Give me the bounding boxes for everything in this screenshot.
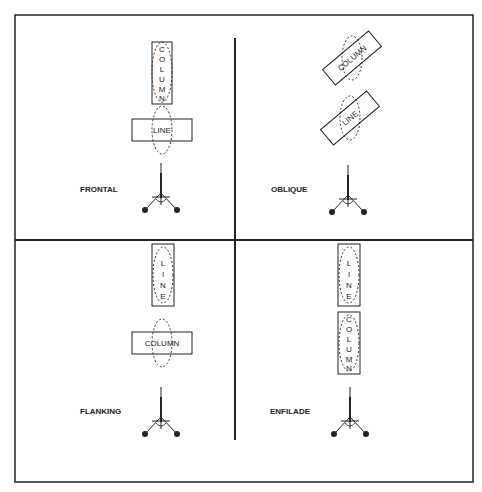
quadrant-frontal: C O L U M N LINE FRONTAL — [80, 42, 192, 213]
svg-text:N: N — [346, 364, 352, 373]
column-target: C O L U M N — [338, 312, 360, 374]
line-target: LINE — [132, 106, 192, 154]
svg-text:L: L — [161, 259, 166, 268]
column-target: COLUMN — [314, 21, 390, 95]
svg-text:L: L — [160, 65, 165, 74]
svg-text:L: L — [347, 259, 352, 268]
tripod-machine-gun-icon — [329, 165, 367, 215]
svg-text:COLUMN: COLUMN — [145, 339, 180, 348]
svg-text:M: M — [159, 85, 166, 94]
svg-text:C: C — [346, 315, 352, 324]
tripod-machine-gun-icon — [142, 387, 180, 437]
svg-text:L: L — [347, 335, 352, 344]
fire-type-label: ENFILADE — [270, 407, 311, 416]
svg-text:C: C — [159, 45, 165, 54]
fire-type-label: FLANKING — [80, 407, 121, 416]
tripod-machine-gun-icon — [142, 163, 180, 213]
fire-types-diagram: C O L U M N LINE FRONTAL COLUMN LINE OBL… — [0, 0, 482, 492]
column-target: C O L U M N — [152, 42, 172, 104]
svg-text:LINE: LINE — [153, 126, 171, 135]
quadrant-flanking: L I N E COLUMN FLANKING — [80, 244, 192, 437]
svg-text:U: U — [346, 345, 352, 354]
svg-text:E: E — [346, 292, 351, 301]
svg-text:O: O — [346, 325, 352, 334]
svg-text:I: I — [348, 270, 350, 279]
column-target: COLUMN — [132, 319, 192, 367]
line-target: L I N E — [152, 244, 174, 306]
svg-text:N: N — [159, 94, 165, 103]
svg-text:U: U — [159, 75, 165, 84]
quadrant-oblique: COLUMN LINE OBLIQUE — [271, 21, 390, 215]
line-target: LINE — [312, 81, 388, 155]
svg-text:E: E — [160, 292, 165, 301]
svg-text:I: I — [162, 270, 164, 279]
svg-text:N: N — [160, 281, 166, 290]
svg-text:COLUMN: COLUMN — [336, 44, 369, 73]
quadrant-enfilade: L I N E C O L U M N ENFILADE — [270, 244, 369, 437]
svg-text:M: M — [346, 355, 353, 364]
line-target: L I N E — [338, 244, 360, 306]
fire-type-label: OBLIQUE — [271, 185, 308, 194]
svg-text:N: N — [346, 281, 352, 290]
tripod-machine-gun-icon — [331, 387, 369, 437]
svg-text:O: O — [159, 55, 165, 64]
fire-type-label: FRONTAL — [80, 185, 118, 194]
